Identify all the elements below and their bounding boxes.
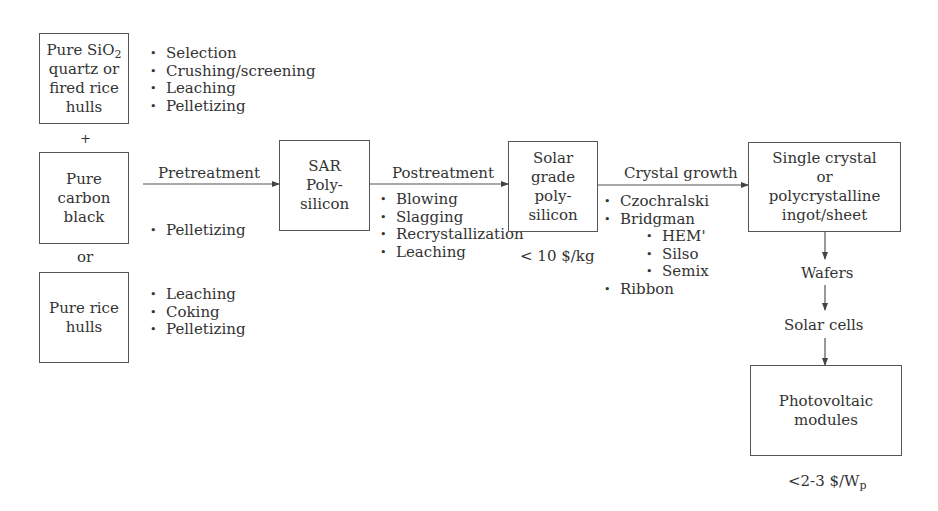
carbon-line3: black	[58, 208, 111, 227]
crystal-growth-method-list: Czochralski Bridgman HEM' Silso Semix Ri…	[602, 193, 709, 298]
solar-grade-line3: poly-	[528, 187, 577, 206]
rice-line2: hulls	[49, 318, 119, 337]
solar-cells-label: Solar cells	[784, 316, 864, 335]
list-item: Coking	[148, 304, 246, 322]
sio2-text: Pure SiO	[47, 41, 115, 59]
ingot-line4: ingot/sheet	[769, 206, 881, 225]
box-solar-grade-polysilicon: Solar grade poly- silicon	[508, 141, 598, 232]
postreatment-label: Postreatment	[392, 164, 494, 183]
sio2-process-list: Selection Crushing/screening Leaching Pe…	[148, 45, 316, 115]
rice-process-list: Leaching Coking Pelletizing	[148, 286, 246, 339]
list-item: Pelletizing	[148, 321, 246, 339]
solar-grade-cost: < 10 $/kg	[520, 247, 594, 266]
list-item: Leaching	[148, 286, 246, 304]
pv-cost-text: <2-3 $/W	[788, 472, 860, 490]
sar-line3: silicon	[300, 195, 349, 214]
box-photovoltaic-modules: Photovoltaic modules	[750, 365, 902, 456]
box-single-crystal-ingot: Single crystal or polycrystalline ingot/…	[748, 142, 901, 232]
solar-grade-line4: silicon	[528, 206, 577, 225]
list-item-sub: HEM'	[602, 228, 709, 246]
list-item: Blowing	[378, 191, 524, 209]
list-item: Czochralski	[602, 193, 709, 211]
pv-line1: Photovoltaic	[779, 392, 873, 411]
list-item: Crushing/screening	[148, 63, 316, 81]
ingot-line2: or	[769, 168, 881, 187]
pv-cost: <2-3 $/Wp	[788, 472, 867, 491]
list-item: Ribbon	[602, 281, 709, 299]
pv-cost-subscript: p	[860, 479, 867, 492]
sio2-subscript: 2	[114, 48, 121, 61]
rice-line1: Pure rice	[49, 299, 119, 318]
carbon-line2: carbon	[58, 189, 111, 208]
box-pure-rice-hulls: Pure rice hulls	[39, 272, 129, 363]
pretreatment-label: Pretreatment	[158, 164, 260, 183]
list-item-sub: Silso	[602, 246, 709, 264]
plus-connector: +	[80, 129, 91, 148]
list-item: Leaching	[378, 244, 524, 262]
or-connector: or	[77, 248, 93, 267]
list-item: Selection	[148, 45, 316, 63]
list-item-sub: Semix	[602, 263, 709, 281]
list-item: Slagging	[378, 209, 524, 227]
box-sar-polysilicon: SAR Poly- silicon	[279, 140, 370, 231]
list-item: Pelletizing	[148, 98, 316, 116]
postreatment-process-list: Blowing Slagging Recrystallization Leach…	[378, 191, 524, 261]
sio2-line3: fired rice	[47, 79, 122, 98]
list-item: Leaching	[148, 80, 316, 98]
list-item: Pelletizing	[148, 222, 246, 240]
sio2-line4: hulls	[47, 98, 122, 117]
solar-grade-line1: Solar	[528, 149, 577, 168]
pv-line2: modules	[779, 411, 873, 430]
ingot-line3: polycrystalline	[769, 187, 881, 206]
sio2-line2: quartz or	[47, 60, 122, 79]
box-pure-carbon-black: Pure carbon black	[39, 152, 129, 244]
ingot-line1: Single crystal	[769, 149, 881, 168]
box-pure-sio2: Pure SiO2 quartz or fired rice hulls	[39, 33, 129, 124]
carbon-line1: Pure	[58, 170, 111, 189]
sio2-line1: Pure SiO2	[47, 41, 122, 60]
carbon-process-list: Pelletizing	[148, 222, 246, 240]
solar-grade-line2: grade	[528, 168, 577, 187]
list-item: Bridgman	[602, 211, 709, 229]
wafers-label: Wafers	[801, 264, 853, 283]
crystal-growth-label: Crystal growth	[624, 164, 738, 183]
sar-line1: SAR	[300, 157, 349, 176]
list-item: Recrystallization	[378, 226, 524, 244]
sar-line2: Poly-	[300, 176, 349, 195]
